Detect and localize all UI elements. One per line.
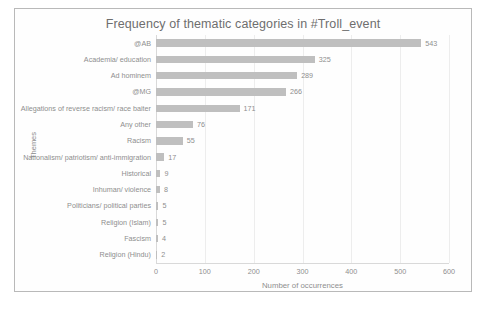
chart-container: Frequency of thematic categories in #Tro… xyxy=(14,8,472,292)
bar[interactable] xyxy=(156,121,193,129)
bar[interactable] xyxy=(156,56,315,64)
category-label: Politicians/ political parties xyxy=(67,202,151,209)
bar-row[interactable]: Religion (Islam)5 xyxy=(156,214,166,230)
x-tick-label: 200 xyxy=(248,267,260,276)
bar-row[interactable]: Historical9 xyxy=(156,165,168,181)
bar-value-label: 289 xyxy=(301,72,313,79)
y-axis-title: Themes xyxy=(29,116,38,176)
bar-row[interactable]: Politicians/ political parties5 xyxy=(156,198,166,214)
bar-value-label: 2 xyxy=(161,251,165,258)
x-axis-ticks: 0100200300400500600 xyxy=(156,267,449,279)
bar-row[interactable]: Inhuman/ violence8 xyxy=(156,182,168,198)
bar-value-label: 171 xyxy=(244,105,256,112)
x-tick-label: 600 xyxy=(443,267,455,276)
bar[interactable] xyxy=(156,39,421,47)
bar-row[interactable]: @MG266 xyxy=(156,84,302,100)
bar-value-label: 543 xyxy=(425,40,437,47)
category-label: @MG xyxy=(132,88,151,95)
gridline-600 xyxy=(449,35,450,263)
x-tick-label: 500 xyxy=(394,267,406,276)
category-label: @AB xyxy=(134,40,151,47)
bar[interactable] xyxy=(156,202,158,210)
bar-value-label: 266 xyxy=(290,88,302,95)
category-label: Nationalism/ patriotism/ anti-immigratio… xyxy=(23,154,151,161)
bar-row[interactable]: Ad hominem289 xyxy=(156,68,313,84)
bar-value-label: 55 xyxy=(187,137,195,144)
bar-value-label: 5 xyxy=(162,202,166,209)
bar-value-label: 325 xyxy=(319,56,331,63)
bar-row[interactable]: Academia/ education325 xyxy=(156,51,331,67)
bar[interactable] xyxy=(156,105,240,113)
category-label: Religion (Hindu) xyxy=(99,251,151,258)
bar[interactable] xyxy=(156,251,157,259)
x-axis-title: Number of occurrences xyxy=(156,281,449,290)
bar-rows: @AB543Academia/ education325Ad hominem28… xyxy=(156,35,449,263)
bar-row[interactable]: Nationalism/ patriotism/ anti-immigratio… xyxy=(156,149,176,165)
category-label: Fascism xyxy=(124,235,151,242)
bar-row[interactable]: Fascism4 xyxy=(156,230,166,246)
category-label: Academia/ education xyxy=(84,56,151,63)
category-label: Ad hominem xyxy=(111,72,151,79)
bar[interactable] xyxy=(156,88,286,96)
category-label: Any other xyxy=(120,121,151,128)
x-tick-label: 400 xyxy=(345,267,357,276)
category-label: Racism xyxy=(127,137,151,144)
bar[interactable] xyxy=(156,186,160,194)
chart-title: Frequency of thematic categories in #Tro… xyxy=(15,17,471,31)
plot-area: @AB543Academia/ education325Ad hominem28… xyxy=(156,35,449,263)
x-tick-label: 100 xyxy=(199,267,211,276)
bar-row[interactable]: Racism55 xyxy=(156,133,195,149)
bar-row[interactable]: @AB543 xyxy=(156,35,437,51)
bar[interactable] xyxy=(156,153,164,161)
x-tick-label: 300 xyxy=(297,267,309,276)
category-label: Historical xyxy=(121,170,151,177)
category-label: Inhuman/ violence xyxy=(93,186,151,193)
bar[interactable] xyxy=(156,137,183,145)
x-axis-line xyxy=(156,263,449,264)
bar[interactable] xyxy=(156,72,297,80)
bar-value-label: 4 xyxy=(162,235,166,242)
bar-row[interactable]: Religion (Hindu)2 xyxy=(156,247,165,263)
bar[interactable] xyxy=(156,219,158,227)
bar-value-label: 5 xyxy=(162,219,166,226)
bar-row[interactable]: Any other76 xyxy=(156,116,205,132)
bar-value-label: 76 xyxy=(197,121,205,128)
bar-row[interactable]: Allegations of reverse racism/ race bait… xyxy=(156,100,256,116)
bar-value-label: 9 xyxy=(164,170,168,177)
bar-value-label: 8 xyxy=(164,186,168,193)
bar[interactable] xyxy=(156,235,158,243)
x-tick-label: 0 xyxy=(154,267,158,276)
category-label: Religion (Islam) xyxy=(101,219,151,226)
category-label: Allegations of reverse racism/ race bait… xyxy=(21,105,151,112)
bar[interactable] xyxy=(156,170,160,178)
bar-value-label: 17 xyxy=(168,154,176,161)
